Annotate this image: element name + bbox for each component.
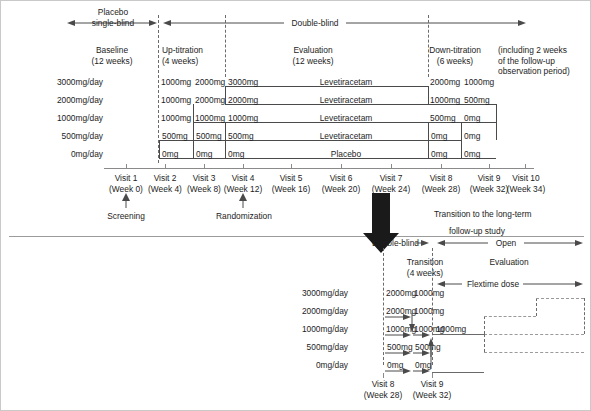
study-design-figure: Placebo single-blind Double-blind Baseli… <box>0 0 591 411</box>
open-dashed-step-2 <box>536 298 584 299</box>
open-dashed-riser-2 <box>536 298 537 316</box>
open-dashed-level-1000 <box>484 334 584 335</box>
open-baseline-0mg <box>432 372 484 373</box>
lower-tick-visit-8 <box>383 373 384 378</box>
open-dashed-riser-4 <box>484 334 485 352</box>
open-dashed-step-1 <box>484 316 536 317</box>
open-baseline-1000 <box>432 334 484 335</box>
lower-tick-visit-9 <box>432 373 433 378</box>
open-dashed-level-lower <box>484 352 584 353</box>
lower-transition-arrows <box>1 1 591 411</box>
open-dashed-riser-1 <box>484 316 485 334</box>
open-dashed-riser-3 <box>584 298 585 334</box>
lower-visit-label-9: Visit 9 (Week 32) <box>398 379 466 400</box>
